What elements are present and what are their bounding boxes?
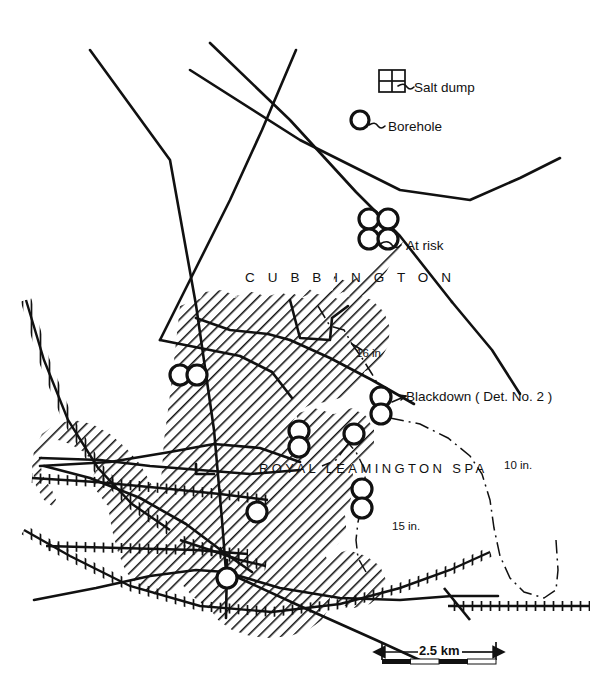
label-contour-16in: 16 in bbox=[356, 347, 381, 359]
borehole-station bbox=[217, 568, 237, 588]
scale-bar: 2.5 km bbox=[382, 642, 496, 664]
borehole-at-risk-2 bbox=[378, 209, 398, 229]
borehole-at-risk-1 bbox=[359, 209, 379, 229]
scale-bar-label: 2.5 km bbox=[419, 643, 459, 658]
salt-dump-symbol bbox=[379, 70, 405, 92]
borehole-blackdown-lower bbox=[371, 404, 391, 424]
leader-borehole bbox=[369, 123, 385, 128]
label-royal-leamington-spa: ROYAL LEAMINGTON SPA bbox=[259, 461, 488, 476]
label-blackdown: Blackdown ( Det. No. 2 ) bbox=[406, 389, 552, 404]
map-figure: C U B B I N G T O N ROYAL LEAMINGTON SPA… bbox=[0, 0, 596, 685]
label-borehole: Borehole bbox=[388, 119, 442, 134]
borehole-legend bbox=[351, 111, 369, 129]
map-canvas: C U B B I N G T O N ROYAL LEAMINGTON SPA… bbox=[0, 0, 596, 685]
contour-10in bbox=[390, 418, 558, 598]
label-salt-dump: Salt dump bbox=[414, 80, 475, 95]
borehole-leamington-north bbox=[344, 424, 364, 444]
label-at-risk: At risk bbox=[406, 238, 444, 253]
borehole-at-risk-4 bbox=[378, 229, 398, 249]
scale-bar-seg-3 bbox=[439, 659, 468, 664]
label-contour-15in: 15 in. bbox=[392, 520, 420, 532]
scale-bar-seg-1 bbox=[382, 659, 411, 664]
road-ne-crossing bbox=[190, 70, 560, 200]
label-contour-10in: 10 in. bbox=[504, 459, 532, 471]
borehole-central-lower bbox=[289, 437, 309, 457]
borehole-west-2 bbox=[187, 365, 207, 385]
label-cubbington: C U B B I N G T O N bbox=[245, 270, 456, 285]
borehole-urban-single bbox=[247, 502, 267, 522]
borehole-at-risk-3 bbox=[359, 229, 379, 249]
leader-salt-dump bbox=[398, 84, 414, 89]
scale-bar-seg-4 bbox=[468, 659, 497, 664]
scale-bar-seg-2 bbox=[411, 659, 440, 664]
road-ne-spur bbox=[452, 302, 520, 394]
borehole-leamington-south-lower bbox=[352, 498, 372, 518]
borehole-leamington-south-upper bbox=[352, 479, 372, 499]
